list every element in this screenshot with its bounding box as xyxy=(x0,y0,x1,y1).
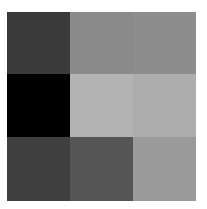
grid-cell-r2-c1 xyxy=(7,74,70,137)
grid-cell-r2-c3 xyxy=(133,74,196,137)
grid-cell-r3-c2 xyxy=(70,137,133,201)
grid-cell-r2-c2 xyxy=(70,74,133,137)
grid-cell-r1-c2 xyxy=(70,12,133,74)
grid-cell-r1-c1 xyxy=(7,12,70,74)
grid-cell-r3-c3 xyxy=(133,137,196,201)
grayscale-grid xyxy=(7,12,196,201)
grid-cell-r1-c3 xyxy=(133,12,196,74)
grid-cell-r3-c1 xyxy=(7,137,70,201)
